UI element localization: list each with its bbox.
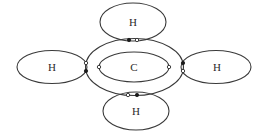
hydrogen-right: H	[181, 51, 251, 84]
electron-open-dot	[135, 38, 138, 41]
electron-open-dot	[181, 69, 184, 72]
carbon-label: C	[130, 61, 137, 73]
electron-filled-dot	[84, 69, 87, 72]
hydrogen-top-label: H	[129, 16, 137, 28]
electron-open-dot	[167, 65, 170, 68]
hydrogen-left: H	[17, 51, 87, 84]
electron-open-dot	[84, 61, 87, 64]
diagram-canvas: H H H H C	[0, 0, 266, 133]
electron-filled-dot	[135, 93, 138, 96]
electron-filled-dot	[127, 38, 130, 41]
hydrogen-bottom-label: H	[132, 105, 140, 117]
hydrogen-bottom: H	[103, 92, 169, 130]
hydrogen-top: H	[100, 3, 166, 41]
electron-filled-dot	[181, 61, 184, 64]
hydrogen-left-label: H	[48, 61, 56, 73]
electron-open-dot	[97, 65, 100, 68]
electron-open-dot	[126, 93, 129, 96]
hydrogen-right-label: H	[213, 61, 221, 73]
methane-orbital-diagram: H H H H C	[0, 0, 266, 133]
